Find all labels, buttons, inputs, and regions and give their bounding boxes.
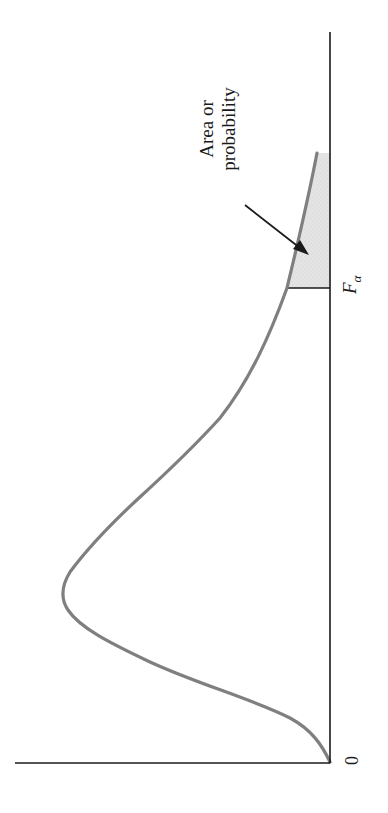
annotation-line-1: Area or [196, 59, 218, 199]
f-alpha-main: F [339, 283, 360, 295]
density-curve [63, 153, 330, 762]
f-distribution-figure: Area or probability 0 Fα [0, 0, 388, 813]
tick-label-zero: 0 [342, 749, 363, 773]
annotation-line-2: probability [218, 59, 240, 199]
area-or-probability-annotation: Area or probability [196, 59, 240, 199]
f-alpha-subscript: α [349, 276, 364, 283]
chart-canvas [0, 0, 388, 813]
tick-label-f-alpha: Fα [339, 267, 365, 303]
